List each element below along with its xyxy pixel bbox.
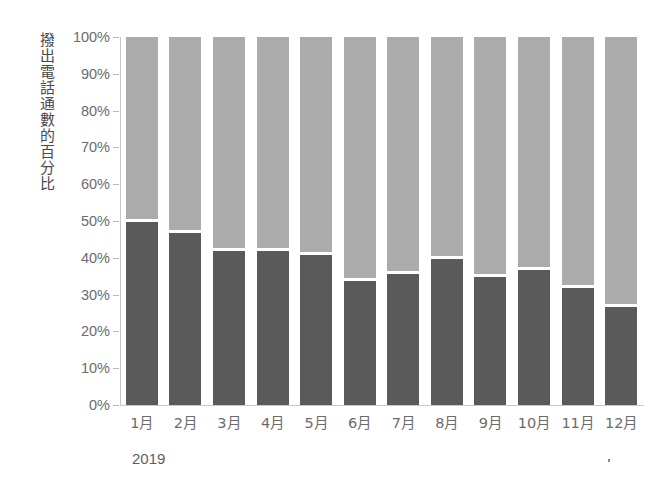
y-axis-tick-label: 50% (58, 213, 110, 229)
y-axis-tick-mark (113, 331, 119, 332)
y-axis-tick-mark (113, 368, 119, 369)
y-axis-tick-mark (113, 37, 119, 38)
bar-segment-upper (605, 37, 637, 306)
x-axis-tick-label: 12月 (599, 411, 643, 432)
bar-segment-lower (562, 287, 594, 405)
bar-segment-upper (562, 37, 594, 287)
x-axis-tick-label: 11月 (556, 411, 600, 432)
y-axis-tick-mark (113, 221, 119, 222)
bar-segment-lower (344, 280, 376, 405)
y-axis-tick-label: 0% (58, 397, 110, 413)
plot-area (121, 37, 644, 405)
bar-segment-lower (213, 250, 245, 405)
x-axis-tick-labels: 1月2月3月4月5月6月7月8月9月10月11月12月 (121, 411, 644, 435)
bar-segment-divider (213, 248, 245, 251)
bar-segment-upper (344, 37, 376, 280)
bar-segment-divider (300, 252, 332, 255)
x-axis-tick-label: 10月 (512, 411, 556, 432)
bar-column (300, 37, 332, 405)
bar-column (605, 37, 637, 405)
bar-segment-divider (344, 278, 376, 281)
y-axis-tick-label: 70% (58, 139, 110, 155)
bar-column (431, 37, 463, 405)
bar-column (213, 37, 245, 405)
y-axis-tick-mark (113, 147, 119, 148)
bar-segment-lower (518, 269, 550, 405)
x-axis-tick-label: 7月 (382, 411, 426, 432)
x-axis-tick-label: 2月 (164, 411, 208, 432)
y-axis-tick-mark (113, 405, 119, 406)
y-axis-tick-labels: 0%10%20%30%40%50%60%70%80%90%100% (54, 0, 110, 492)
bar-column (126, 37, 158, 405)
bar-segment-lower (126, 221, 158, 405)
x-axis-tick-label: 5月 (294, 411, 338, 432)
bar-segment-divider (126, 219, 158, 222)
y-axis-tick-mark (113, 184, 119, 185)
y-axis-tick-label: 40% (58, 250, 110, 266)
y-axis-tick-label: 60% (58, 176, 110, 192)
bar-column (344, 37, 376, 405)
bar-segment-lower (169, 232, 201, 405)
bar-segment-upper (169, 37, 201, 232)
bar-segment-lower (257, 250, 289, 405)
bar-column (562, 37, 594, 405)
x-axis-tick-label: 9月 (469, 411, 513, 432)
x-axis-tick-label: 1月 (120, 411, 164, 432)
x-axis-line (120, 405, 644, 406)
bar-segment-upper (300, 37, 332, 254)
bar-segment-lower (605, 306, 637, 405)
y-axis-tick-mark (113, 295, 119, 296)
y-axis-tick-label: 20% (58, 323, 110, 339)
bar-segment-lower (300, 254, 332, 405)
bar-column (257, 37, 289, 405)
bar-segment-divider (562, 285, 594, 288)
bar-segment-lower (431, 258, 463, 405)
corner-artifact-mark (608, 459, 610, 462)
bar-segment-divider (518, 267, 550, 270)
bar-segment-divider (387, 271, 419, 274)
x-axis-group-label: 2019 (132, 450, 165, 467)
bar-segment-upper (257, 37, 289, 250)
y-axis-tick-label: 10% (58, 360, 110, 376)
stacked-bar-chart: 撥出電話通數的百分比 0%10%20%30%40%50%60%70%80%90%… (0, 0, 652, 492)
bar-segment-divider (257, 248, 289, 251)
bar-segment-lower (387, 273, 419, 405)
x-axis-tick-label: 8月 (425, 411, 469, 432)
x-axis-tick-label: 3月 (207, 411, 251, 432)
bar-segment-upper (126, 37, 158, 221)
y-axis-tick-label: 80% (58, 103, 110, 119)
bar-segment-divider (474, 274, 506, 277)
y-axis-tick-label: 30% (58, 287, 110, 303)
bar-column (518, 37, 550, 405)
bar-segment-upper (518, 37, 550, 269)
bar-segment-lower (474, 276, 506, 405)
y-axis-tick-label: 90% (58, 66, 110, 82)
bar-column (387, 37, 419, 405)
bar-column (474, 37, 506, 405)
bar-segment-divider (605, 304, 637, 307)
y-axis-tick-label: 100% (58, 29, 110, 45)
x-axis-tick-label: 6月 (338, 411, 382, 432)
bar-segment-divider (431, 256, 463, 259)
bar-segment-upper (474, 37, 506, 276)
bar-column (169, 37, 201, 405)
bar-segment-upper (431, 37, 463, 258)
y-axis-tick-mark (113, 111, 119, 112)
y-axis-tick-mark (113, 74, 119, 75)
y-axis-tick-mark (113, 258, 119, 259)
y-axis-title: 撥出電話通數的百分比 (28, 32, 54, 192)
bar-segment-upper (213, 37, 245, 250)
x-axis-tick-label: 4月 (251, 411, 295, 432)
bar-segment-divider (169, 230, 201, 233)
bar-segment-upper (387, 37, 419, 273)
